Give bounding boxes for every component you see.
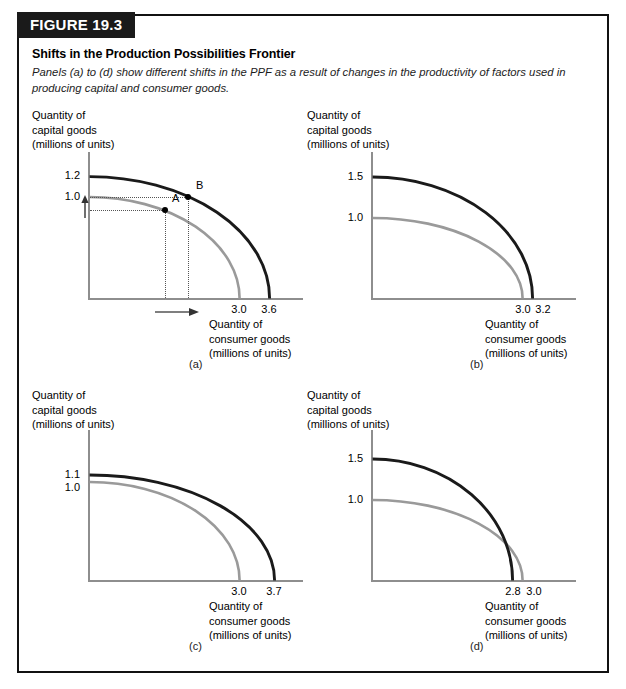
panel-a-letter: (a)	[189, 358, 202, 370]
panel-a-guide-b-vertical	[188, 197, 189, 298]
panel-a-guide-a-horizontal	[90, 210, 166, 211]
y-label-line3: (millions of units)	[32, 137, 115, 152]
panel-b-y-tick-1: 1.5	[333, 170, 363, 182]
y-label-line1: Quantity of	[307, 388, 390, 403]
panel-d-y-axis-label: Quantity of capital goods (millions of u…	[307, 388, 390, 432]
panel-a-curves	[88, 152, 303, 300]
panel-b-curves	[371, 152, 576, 300]
panel-b-plot: 1.5 1.0 3.0 3.2	[371, 152, 576, 300]
panel-a-y-axis-label: Quantity of capital goods (millions of u…	[32, 108, 115, 152]
x-label-line3: (millions of units)	[485, 346, 568, 361]
x-label-line1: Quantity of	[209, 317, 292, 332]
panel-b-y-axis-label: Quantity of capital goods (millions of u…	[307, 108, 390, 152]
panel-a-point-a-marker	[162, 207, 168, 213]
panel-c-x-tick-1: 3.0	[219, 585, 259, 597]
panel-d-new-ppf	[373, 459, 513, 580]
figure-title: Shifts in the Production Possibilities F…	[32, 47, 295, 61]
figure-number-badge: FIGURE 19.3	[17, 12, 135, 38]
panel-c-letter: (c)	[189, 640, 202, 652]
y-label-line2: capital goods	[32, 403, 115, 418]
panel-b-y-tick-2: 1.0	[333, 211, 363, 223]
y-label-line2: capital goods	[32, 123, 115, 138]
x-label-line3: (millions of units)	[485, 628, 568, 643]
panel-d-plot: 1.5 1.0 2.8 3.0	[371, 430, 576, 582]
panel-d-y-tick-1: 1.5	[333, 452, 363, 464]
y-label-line1: Quantity of	[32, 388, 115, 403]
panel-c-y-tick-2: 1.0	[50, 481, 80, 493]
x-label-line1: Quantity of	[209, 599, 292, 614]
panel-d-curves	[371, 430, 576, 582]
panel-a-plot: A B 1.2 1.0 3.0 3.6	[88, 152, 303, 300]
x-label-line1: Quantity of	[485, 317, 568, 332]
panel-b-original-ppf	[373, 218, 523, 298]
y-label-line1: Quantity of	[307, 108, 390, 123]
x-label-line2: consumer goods	[209, 614, 292, 629]
x-label-line3: (millions of units)	[209, 628, 292, 643]
panel-d-y-tick-2: 1.0	[333, 493, 363, 505]
panel-a-y-tick-2: 1.0	[50, 190, 80, 202]
panel-c-plot: 1.1 1.0 3.0 3.7	[88, 430, 303, 582]
panel-b-x-tick-2: 3.2	[523, 303, 563, 315]
panel-a-shift-up-arrow	[78, 192, 92, 220]
panel-a-guide-a-vertical	[165, 210, 166, 298]
panel-d-x-axis-label: Quantity of consumer goods (millions of …	[485, 599, 568, 643]
x-label-line3: (millions of units)	[209, 346, 292, 361]
panel-c-y-axis-label: Quantity of capital goods (millions of u…	[32, 388, 115, 432]
panel-a-y-tick-1: 1.2	[50, 169, 80, 181]
panel-a-shift-right-arrow	[154, 306, 202, 319]
panel-c-x-axis-label: Quantity of consumer goods (millions of …	[209, 599, 292, 643]
figure-caption: Panels (a) to (d) show different shifts …	[32, 64, 592, 96]
panel-d-x-tick-2: 3.0	[514, 585, 554, 597]
panel-b-x-axis-label: Quantity of consumer goods (millions of …	[485, 317, 568, 361]
x-label-line2: consumer goods	[485, 332, 568, 347]
panel-d-letter: (d)	[470, 640, 483, 652]
panel-a-new-ppf	[90, 177, 270, 299]
panel-c-x-tick-2: 3.7	[254, 585, 294, 597]
panel-a-x-tick-2: 3.6	[249, 303, 289, 315]
panel-c-y-tick-1: 1.1	[50, 468, 80, 480]
panel-b-letter: (b)	[470, 358, 483, 370]
panel-a-point-a-label: A	[172, 192, 179, 204]
panel-a-x-axis-label: Quantity of consumer goods (millions of …	[209, 317, 292, 361]
y-label-line3: (millions of units)	[307, 137, 390, 152]
y-label-line1: Quantity of	[32, 108, 115, 123]
panel-c-new-ppf	[90, 475, 275, 580]
panel-d-original-ppf	[373, 500, 523, 580]
y-label-line2: capital goods	[307, 123, 390, 138]
panel-c-curves	[88, 430, 303, 582]
y-label-line2: capital goods	[307, 403, 390, 418]
x-label-line1: Quantity of	[485, 599, 568, 614]
panel-a-point-b-marker	[185, 194, 191, 200]
x-label-line2: consumer goods	[209, 332, 292, 347]
panel-a-point-b-label: B	[196, 179, 203, 191]
x-label-line2: consumer goods	[485, 614, 568, 629]
panel-c-original-ppf	[90, 482, 240, 580]
panel-b-new-ppf	[373, 177, 533, 298]
